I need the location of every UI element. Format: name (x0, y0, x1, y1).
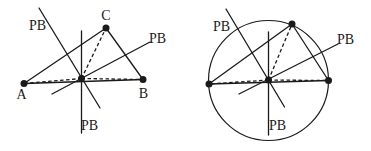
label-vertex-A: A (16, 87, 27, 102)
label-vertex-C: C (101, 8, 110, 23)
vertex-A-dot (21, 80, 28, 87)
pb-line-upper-left (39, 8, 100, 108)
edge-CB (106, 28, 143, 80)
segment-center-to-right-vertex (269, 80, 329, 81)
label-vertex-B: B (139, 86, 148, 101)
top-vertex-dot (289, 21, 296, 28)
vertex-B-dot (140, 76, 147, 83)
pb-line-upper-left (226, 9, 285, 107)
label-pb-bottom: PB (269, 118, 286, 133)
label-pb-bottom: PB (81, 118, 98, 133)
perpendicular-bisector-circumcircle-diagram: PBPBPBABCPBPBPB (0, 0, 371, 151)
circumcenter-dot (265, 77, 272, 84)
label-pb-right: PB (149, 31, 166, 46)
figure-triangle-perpendicular-bisectors: PBPBPBABC (16, 8, 166, 134)
label-pb-upper-left: PB (213, 19, 230, 34)
label-pb-right: PB (337, 32, 354, 47)
figure-circumscribed-circle: PBPBPB (206, 9, 355, 141)
geometry-diagram-page: PBPBPBABCPBPBPB (0, 0, 371, 151)
label-pb-upper-left: PB (29, 18, 46, 33)
circumcenter-dot (78, 75, 85, 82)
edge-AC (24, 28, 106, 84)
vertex-C-dot (103, 25, 110, 32)
right-vertex-dot (325, 77, 332, 84)
left-vertex-dot (206, 81, 213, 88)
